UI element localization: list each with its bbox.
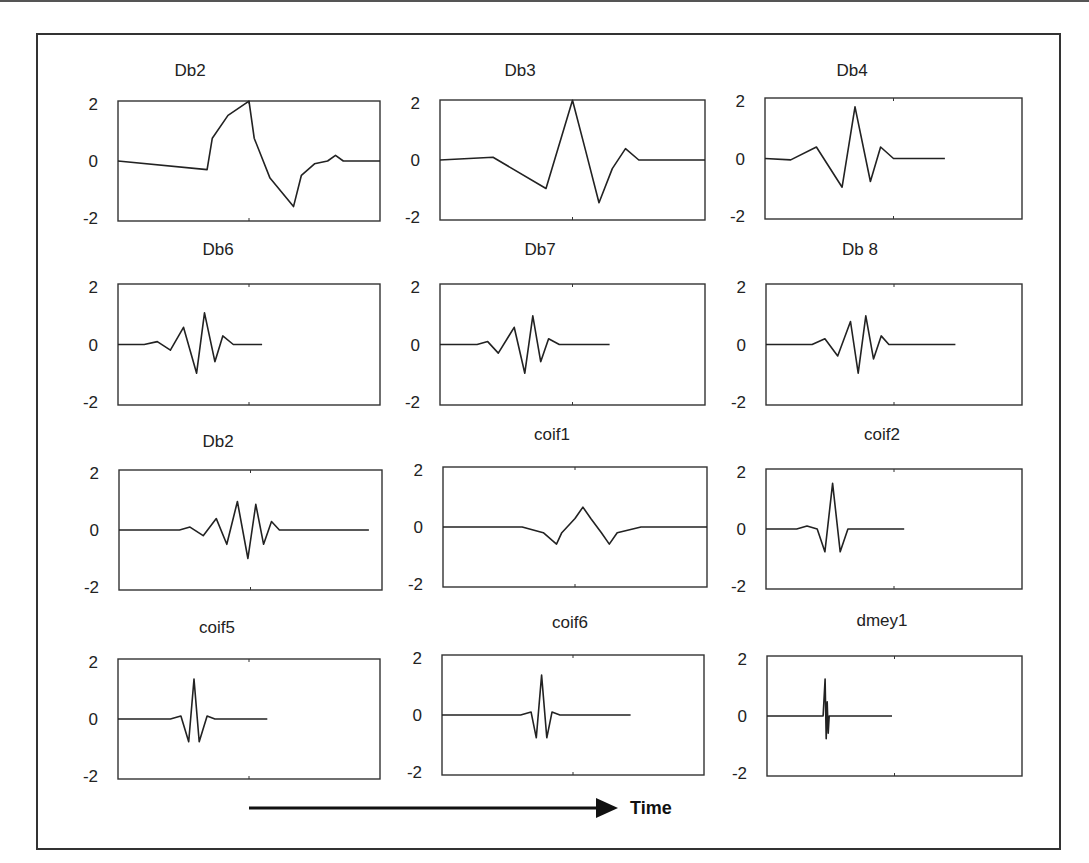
wavelet-curve xyxy=(766,316,955,373)
wavelet-panel: Db220-2 xyxy=(83,61,380,228)
y-tick-label: 0 xyxy=(737,336,746,355)
y-tick-label: -2 xyxy=(731,393,746,412)
wavelet-panel: Db720-2 xyxy=(405,240,705,412)
y-tick-label: -2 xyxy=(731,577,746,596)
y-tick-label: -2 xyxy=(84,578,99,597)
panel-title: Db3 xyxy=(504,61,535,80)
wavelet-grid: Db220-2Db320-2Db420-2Db620-2Db720-2Db 82… xyxy=(0,0,1089,863)
y-tick-label: 2 xyxy=(411,94,420,113)
y-tick-label: -2 xyxy=(408,575,423,594)
y-tick-label: 2 xyxy=(737,463,746,482)
panels-container: Db220-2Db320-2Db420-2Db620-2Db720-2Db 82… xyxy=(83,61,1022,786)
wavelet-curve xyxy=(119,502,369,559)
panel-title: Db4 xyxy=(836,61,867,80)
y-tick-label: -2 xyxy=(730,207,745,226)
y-tick-label: 0 xyxy=(737,520,746,539)
wavelet-panel: Db 820-2 xyxy=(731,240,1022,412)
y-tick-label: 2 xyxy=(738,650,747,669)
wavelet-panel: Db220-2 xyxy=(84,432,382,597)
panel-title: Db7 xyxy=(524,240,555,259)
y-tick-label: -2 xyxy=(405,208,420,227)
y-tick-label: 2 xyxy=(737,278,746,297)
y-tick-label: 0 xyxy=(411,151,420,170)
y-tick-label: 0 xyxy=(89,336,98,355)
y-tick-label: 2 xyxy=(89,278,98,297)
wavelet-curve xyxy=(442,675,631,738)
y-tick-label: 2 xyxy=(89,95,98,114)
panel-title: coif2 xyxy=(864,425,900,444)
y-tick-label: 2 xyxy=(411,278,420,297)
y-tick-label: 2 xyxy=(736,92,745,111)
panel-title: coif5 xyxy=(199,618,235,637)
time-axis-arrow: Time xyxy=(249,798,672,818)
wavelet-panel: Db320-2 xyxy=(405,61,705,227)
y-tick-label: 0 xyxy=(89,152,98,171)
wavelet-panel: coif520-2 xyxy=(83,618,380,786)
y-tick-label: 2 xyxy=(89,653,98,672)
panel-title: dmey1 xyxy=(856,611,907,630)
wavelet-curve xyxy=(118,101,380,206)
wavelet-curve xyxy=(118,679,267,742)
wavelet-curve xyxy=(118,313,262,373)
y-tick-label: 0 xyxy=(411,336,420,355)
panel-title: Db2 xyxy=(174,61,205,80)
wavelet-panel: coif620-2 xyxy=(407,613,704,782)
panel-title: Db6 xyxy=(202,240,233,259)
plot-area xyxy=(118,101,380,221)
arrow-head-icon xyxy=(596,798,618,818)
wavelet-panel: dmey120-2 xyxy=(732,611,1022,783)
y-tick-label: -2 xyxy=(83,393,98,412)
y-tick-label: 0 xyxy=(414,518,423,537)
y-tick-label: -2 xyxy=(407,763,422,782)
wavelet-curve xyxy=(766,483,904,551)
wavelet-curve xyxy=(443,507,707,544)
wavelet-curve xyxy=(765,107,945,187)
y-tick-label: -2 xyxy=(83,209,98,228)
y-tick-label: 0 xyxy=(89,710,98,729)
panel-title: Db2 xyxy=(202,432,233,451)
wavelet-panel: coif120-2 xyxy=(408,425,707,594)
panel-title: Db 8 xyxy=(842,240,878,259)
wavelet-curve xyxy=(767,679,892,739)
y-tick-label: -2 xyxy=(732,764,747,783)
panel-title: coif1 xyxy=(534,425,570,444)
y-tick-label: 2 xyxy=(414,461,423,480)
wavelet-panel: coif220-2 xyxy=(731,425,1022,596)
y-tick-label: -2 xyxy=(83,767,98,786)
time-axis-label: Time xyxy=(630,798,672,818)
y-tick-label: 0 xyxy=(736,150,745,169)
panel-title: coif6 xyxy=(552,613,588,632)
y-tick-label: 2 xyxy=(90,464,99,483)
y-tick-label: 0 xyxy=(738,707,747,726)
y-tick-label: 0 xyxy=(90,521,99,540)
y-tick-label: 0 xyxy=(413,706,422,725)
y-tick-label: 2 xyxy=(413,649,422,668)
wavelet-curve xyxy=(440,316,610,373)
y-tick-label: -2 xyxy=(405,393,420,412)
wavelet-curve xyxy=(440,100,705,203)
wavelet-panel: Db420-2 xyxy=(730,61,1022,226)
wavelet-panel: Db620-2 xyxy=(83,240,380,412)
